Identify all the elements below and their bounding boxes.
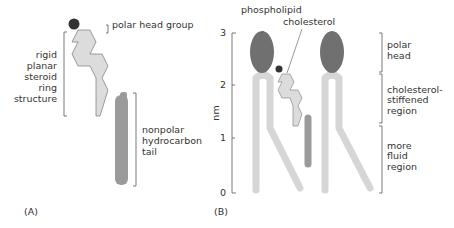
phospholipid-right (320, 31, 370, 190)
svg-text:head: head (387, 50, 411, 61)
polar-head-icon (69, 19, 80, 30)
svg-text:rigid: rigid (36, 49, 57, 60)
svg-text:0: 0 (220, 187, 226, 198)
svg-text:nm: nm (210, 105, 221, 120)
svg-text:1: 1 (220, 132, 226, 143)
svg-text:fluid: fluid (387, 150, 408, 161)
svg-text:polar head group: polar head group (112, 19, 194, 30)
nm-axis (232, 33, 236, 193)
panel-a: polar head group rigid planar steroid ri… (14, 19, 202, 218)
svg-text:(A): (A) (24, 206, 38, 217)
svg-text:planar: planar (27, 60, 57, 71)
svg-text:region: region (387, 105, 417, 116)
svg-text:2: 2 (220, 79, 226, 90)
cholesterol-diagram: polar head group rigid planar steroid ri… (0, 0, 454, 228)
svg-text:structure: structure (14, 93, 57, 104)
svg-text:region: region (387, 161, 417, 172)
svg-text:stiffened: stiffened (387, 94, 429, 105)
tail-a (115, 95, 128, 185)
svg-text:steroid: steroid (24, 71, 57, 82)
svg-text:tail: tail (142, 146, 157, 157)
svg-text:hydrocarbon: hydrocarbon (142, 135, 202, 146)
steroid-rings-a (72, 30, 108, 116)
svg-text:3: 3 (220, 27, 226, 38)
svg-text:ring: ring (38, 82, 57, 93)
phospholipid-left (250, 31, 300, 190)
svg-text:cholesterol: cholesterol (283, 16, 335, 27)
svg-text:(B): (B) (214, 206, 228, 217)
svg-text:nonpolar: nonpolar (142, 124, 184, 135)
panel-b: (B) 3 2 1 0 nm phospholipid choles (210, 4, 443, 217)
svg-text:polar: polar (387, 39, 411, 50)
svg-text:phospholipid: phospholipid (241, 4, 302, 15)
